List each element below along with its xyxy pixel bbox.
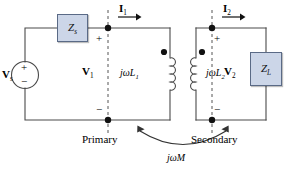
secondary-top-terminal-node	[209, 25, 215, 31]
current-i2-label: I2	[223, 3, 231, 14]
zl-subscript: L	[267, 69, 271, 77]
secondary-side-label: Secondary	[191, 134, 237, 145]
i1-subscript: 1	[123, 9, 127, 17]
secondary-coil-windings	[191, 58, 196, 90]
secondary-bottom-terminal-node	[209, 117, 215, 123]
v2-symbol: V	[224, 65, 232, 77]
mutual-inductance-label: jωM	[167, 153, 185, 163]
primary-side-label: Primary	[82, 134, 117, 145]
source-impedance-box[interactable]: Zs	[57, 14, 88, 42]
current-arrow-i2-icon	[222, 14, 246, 21]
load-impedance-label: ZL	[251, 62, 281, 74]
jwl2-symbol: jωL	[206, 67, 221, 78]
load-impedance-box[interactable]: ZL	[250, 52, 282, 86]
current-i1-label: I1	[119, 3, 127, 14]
voltage-v1-label: V1	[82, 66, 94, 77]
source-minus-sign: −	[21, 76, 27, 87]
source-voltage-label: Vs	[2, 69, 13, 80]
v2-subscript: 2	[232, 72, 236, 80]
secondary-polarity-dot-icon	[199, 49, 205, 55]
secondary-inductor-label: jωL2	[206, 68, 225, 78]
current-arrow-i1-icon	[118, 14, 142, 21]
primary-polarity-dot-icon	[161, 49, 167, 55]
primary-top-terminal-node	[105, 25, 111, 31]
primary-bottom-terminal-node	[105, 117, 111, 123]
voltage-v2-label: V2	[224, 66, 236, 77]
zs-subscript: s	[74, 28, 77, 36]
jwl2-subscript: 2	[221, 73, 224, 80]
v1-plus-sign: +	[96, 33, 102, 44]
v2-minus-sign: −	[214, 104, 220, 115]
v1-minus-sign: −	[96, 104, 102, 115]
primary-coil-windings	[170, 58, 175, 90]
circuit-schematic-canvas	[0, 0, 292, 170]
source-impedance-label: Zs	[58, 21, 87, 33]
primary-inductor-label: jωL1	[120, 68, 139, 78]
vs-symbol: V	[2, 68, 10, 80]
v2-plus-sign: +	[214, 33, 220, 44]
v1-symbol: V	[82, 65, 90, 77]
source-plus-sign: +	[21, 62, 27, 73]
v1-subscript: 1	[90, 72, 94, 80]
wire-source-to-zs	[25, 28, 57, 62]
jwl1-symbol: jωL	[120, 67, 135, 78]
vs-subscript: s	[10, 75, 13, 83]
i2-subscript: 2	[227, 9, 231, 17]
circuit-diagram-figure: Zs ZL Vs + − I1 I2 V1 + − V2 + − jωL1 jω…	[0, 0, 292, 170]
jwl1-subscript: 1	[135, 73, 138, 80]
